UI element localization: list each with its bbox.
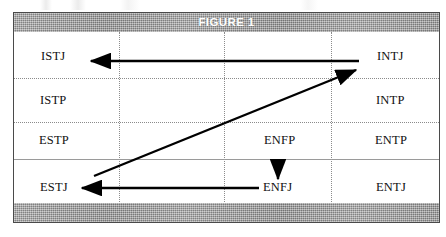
figure-footer-band — [14, 203, 439, 222]
figure-title: FIGURE 1 — [14, 13, 439, 32]
cell-label-enfj: ENFJ — [263, 180, 292, 195]
cell-label-entp: ENTP — [375, 133, 407, 148]
cell-label-estp: ESTP — [39, 133, 69, 148]
cell-label-entj: ENTJ — [376, 180, 406, 195]
cell-label-estj: ESTJ — [40, 180, 68, 195]
cell-label-intp: INTP — [376, 93, 405, 108]
cell-label-enfp: ENFP — [264, 133, 295, 148]
row-divider-2 — [14, 122, 439, 123]
type-grid: ISTJ ISTP ESTP ESTJ ENFP ENFJ INTJ INTP … — [14, 32, 439, 204]
cell-label-intj: INTJ — [377, 49, 404, 64]
row-divider-1 — [14, 78, 439, 79]
column-divider-3 — [331, 32, 332, 204]
scan-artifact-band — [0, 0, 446, 10]
figure-frame: FIGURE 1 ISTJ ISTP ESTP ESTJ ENFP ENFJ I… — [13, 12, 440, 223]
cell-label-istj: ISTJ — [41, 49, 65, 64]
row-divider-3 — [14, 159, 439, 160]
column-divider-2 — [224, 32, 225, 204]
cell-label-istp: ISTP — [40, 93, 67, 108]
column-divider-1 — [119, 32, 120, 204]
